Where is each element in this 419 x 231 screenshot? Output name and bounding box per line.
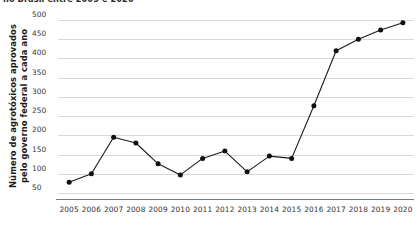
data-point	[156, 161, 161, 166]
data-point	[267, 154, 272, 159]
data-point	[378, 28, 383, 33]
data-point	[356, 37, 361, 42]
data-point	[334, 48, 339, 53]
data-point	[400, 20, 405, 25]
data-point	[222, 149, 227, 154]
series-line	[69, 23, 403, 183]
data-point	[111, 135, 116, 140]
data-point	[133, 141, 138, 146]
data-point	[178, 172, 183, 177]
data-point	[67, 180, 72, 185]
data-series-layer	[0, 0, 419, 231]
data-point	[311, 103, 316, 108]
data-point	[89, 171, 94, 176]
data-point	[289, 156, 294, 161]
chart-container: no Brasil entre 2005 e 2020 Número de ag…	[0, 0, 419, 231]
data-point	[200, 156, 205, 161]
data-point	[245, 169, 250, 174]
